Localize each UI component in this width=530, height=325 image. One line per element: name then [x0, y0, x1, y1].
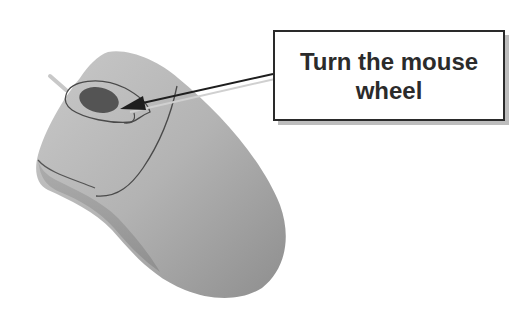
mouse-body	[36, 51, 286, 298]
mouse-cable	[50, 76, 66, 90]
callout-text: Turn the mouse wheel	[284, 47, 494, 105]
callout-box: Turn the mouse wheel	[273, 30, 505, 121]
